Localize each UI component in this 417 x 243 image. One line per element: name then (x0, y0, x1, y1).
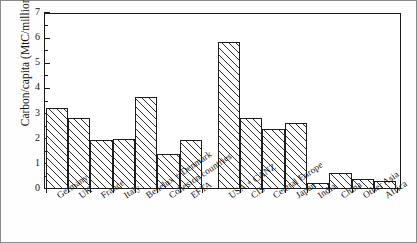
y-tick-label: 7 (26, 7, 40, 17)
image-frame: Carbon/capita (MtC/million) 01234567 Ger… (0, 0, 417, 243)
bar (90, 140, 112, 189)
bar (262, 129, 284, 189)
bar (135, 97, 157, 189)
y-tick-label: 5 (26, 57, 40, 67)
x-tick (46, 189, 47, 193)
y-tick-label: 6 (26, 32, 40, 42)
y-tick-label: 3 (26, 108, 40, 118)
y-tick-label: 2 (26, 133, 40, 143)
y-tick-label: 1 (26, 158, 40, 168)
y-tick-label: 4 (26, 82, 40, 92)
bar (46, 108, 68, 189)
y-tick-label: 0 (26, 183, 40, 193)
